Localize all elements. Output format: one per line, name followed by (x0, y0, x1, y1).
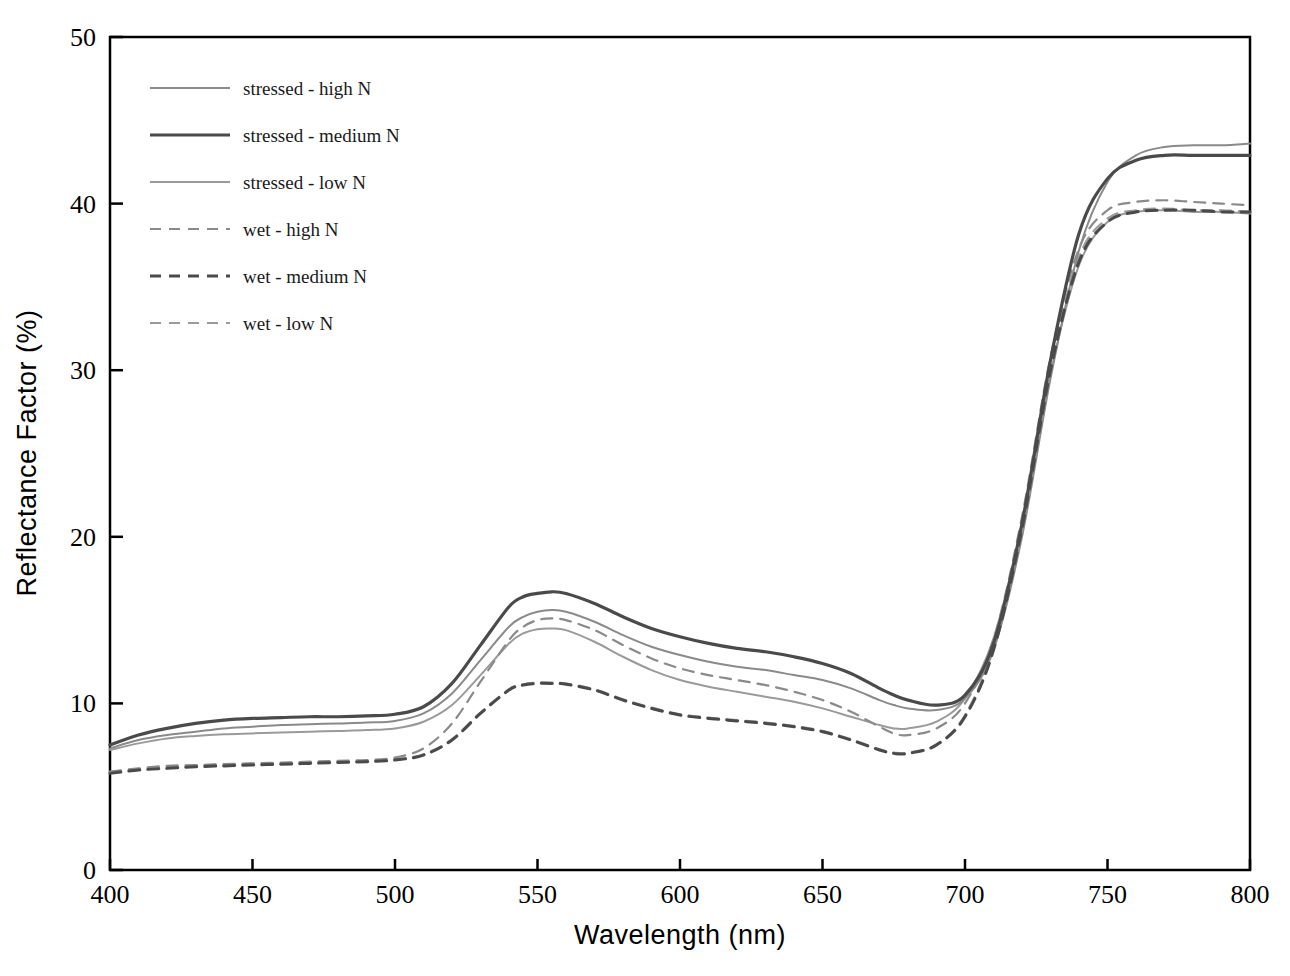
x-tick-label: 400 (91, 880, 130, 909)
y-tick-label: 0 (83, 856, 96, 885)
x-tick-label: 750 (1088, 880, 1127, 909)
y-tick-label: 10 (70, 689, 96, 718)
x-tick-label: 600 (661, 880, 700, 909)
y-tick-label: 20 (70, 523, 96, 552)
x-axis-title: Wavelength (nm) (574, 920, 786, 950)
x-axis-tick-labels: 400450500550600650700750800 (91, 880, 1270, 909)
x-tick-label: 550 (518, 880, 557, 909)
x-tick-label: 500 (376, 880, 415, 909)
y-tick-label: 30 (70, 356, 96, 385)
legend-label-stressed-low-n: stressed - low N (243, 172, 366, 193)
x-tick-label: 450 (233, 880, 272, 909)
legend-label-wet-low-n: wet - low N (243, 313, 334, 334)
legend-label-stressed-high-n: stressed - high N (243, 78, 372, 99)
data-curve-wet-medium-n (110, 210, 1250, 773)
y-axis-tick-labels: 01020304050 (70, 23, 96, 885)
y-tick-label: 50 (70, 23, 96, 52)
plot-frame (110, 37, 1250, 870)
legend-label-stressed-medium-n: stressed - medium N (243, 125, 400, 146)
data-curve-stressed-low-n (110, 210, 1250, 750)
x-tick-label: 650 (803, 880, 842, 909)
spectral-reflectance-chart: 400450500550600650700750800 01020304050 … (0, 0, 1290, 976)
legend-label-wet-high-n: wet - high N (243, 219, 339, 240)
plot-border (110, 37, 1250, 870)
y-axis-title: Reflectance Factor (%) (12, 309, 42, 596)
legend-label-wet-medium-n: wet - medium N (243, 266, 367, 287)
data-curve-stressed-medium-n (110, 155, 1250, 745)
figure-page: 400450500550600650700750800 01020304050 … (0, 0, 1290, 976)
chart-legend: stressed - high Nstressed - medium Nstre… (150, 78, 400, 334)
data-curve-wet-low-n (110, 209, 1250, 773)
x-tick-label: 800 (1231, 880, 1270, 909)
x-axis-ticks (110, 859, 1250, 870)
y-tick-label: 40 (70, 190, 96, 219)
x-tick-label: 700 (946, 880, 985, 909)
